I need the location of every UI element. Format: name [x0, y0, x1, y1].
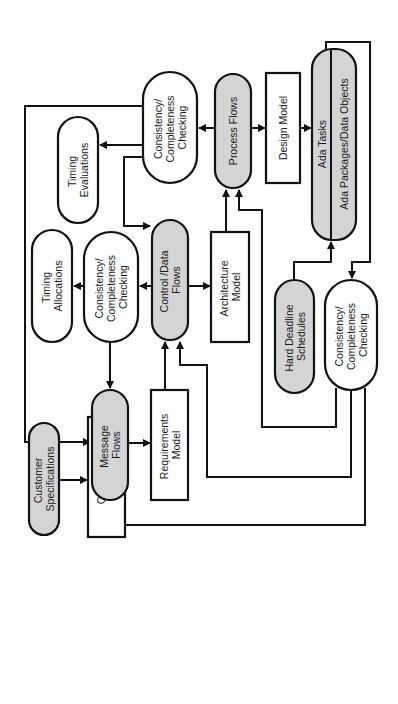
node-consistency-checking-2[interactable]: Consistency/ Completeness Checking: [143, 72, 197, 183]
node-label: Completeness: [105, 255, 117, 322]
node-label-ada-packages: Ada Packages/Data Objects: [338, 78, 350, 209]
node-consistency-checking-1[interactable]: Consistency/ Completeness Checking: [84, 232, 138, 342]
edge-hard-deadline-to-ada: [294, 242, 331, 280]
svg-text:Ada Tasks: Ada Tasks: [316, 120, 328, 168]
node-label: Flows: [170, 266, 182, 293]
node-label: Checking: [117, 265, 129, 309]
node-label: Design Model: [277, 96, 289, 160]
node-label: Requirements: [158, 414, 170, 479]
node-label: Hard Deadline: [283, 304, 295, 371]
node-hard-deadline-schedules[interactable]: Hard Deadline Schedules: [275, 280, 314, 393]
node-label: Completeness: [345, 303, 357, 370]
node-label: Process Flows: [227, 97, 239, 165]
node-label-ada-tasks: Ada Tasks: [316, 120, 328, 168]
node-label: Model: [170, 431, 182, 460]
node-label: Timing: [66, 156, 78, 187]
node-timing-evaluations[interactable]: Timing Evaluations: [58, 117, 98, 223]
node-label: Checking: [176, 105, 188, 149]
diagram-canvas: Customer Specifications Operations Model…: [0, 0, 398, 704]
node-label: Consistency/: [93, 258, 105, 318]
node-timing-allocations[interactable]: Timing Allocations: [32, 230, 72, 342]
node-label: Evaluations: [78, 143, 90, 197]
node-label: Message: [98, 425, 110, 468]
node-requirements-model[interactable]: Requirements Model: [151, 390, 188, 500]
node-label: Consistency/: [152, 99, 164, 159]
svg-text:Design Model: Design Model: [277, 96, 289, 160]
node-ada-tasks-packages[interactable]: Ada Tasks Ada Packages/Data Objects: [312, 49, 356, 240]
node-label: Flows: [110, 431, 122, 458]
node-customer-specifications[interactable]: Customer Specifications: [29, 423, 59, 535]
node-process-flows[interactable]: Process Flows: [215, 74, 251, 188]
node-label: Customer: [32, 457, 44, 503]
node-label: Allocations: [52, 261, 64, 312]
node-label: Specifications: [44, 447, 56, 512]
svg-text:Ada Packages/Data Objects: Ada Packages/Data Objects: [338, 78, 350, 209]
node-label: Architecture: [218, 260, 230, 316]
node-control-data-flows[interactable]: Control /Data Flows: [152, 220, 188, 340]
svg-text:Customer Specifications: Customer Specifications: [32, 447, 56, 512]
node-label: Checking: [357, 313, 369, 357]
node-label: Completeness: [164, 95, 176, 162]
node-label: Timing: [40, 272, 52, 303]
node-label: Model: [230, 273, 242, 302]
node-consistency-checking-3[interactable]: Consistency/ Completeness Checking: [325, 280, 377, 390]
svg-text:Hard Deadline Schedules: Hard Deadline Schedules: [283, 301, 307, 371]
node-message-flows[interactable]: Message Flows: [92, 390, 128, 500]
node-architecture-model[interactable]: Architecture Model: [211, 232, 249, 342]
node-label: Consistency/: [333, 306, 345, 366]
node-label: Control /Data: [158, 250, 170, 312]
node-label: Schedules: [295, 312, 307, 361]
node-design-model[interactable]: Design Model: [266, 73, 300, 183]
svg-text:Process Flows: Process Flows: [227, 97, 239, 165]
